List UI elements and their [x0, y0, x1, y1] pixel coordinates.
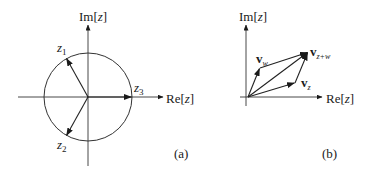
vector-vz — [248, 83, 295, 97]
label-vw: vw — [256, 51, 269, 68]
label-vz: vz — [301, 75, 312, 92]
caption-a: (a) — [174, 146, 188, 161]
complex-plane-figure: Im[z] Re[z] z1 z2 z3 (a) Im[z] Re[z] vw … — [0, 0, 369, 174]
panel-a: Im[z] Re[z] z1 z2 z3 (a) — [18, 9, 194, 166]
label-vz-plus-w: vz+w — [310, 44, 331, 61]
label-z2: z2 — [56, 137, 67, 154]
label-z3: z3 — [133, 80, 144, 97]
vector-z1 — [67, 59, 89, 98]
imag-axis-label-b: Im[z] — [239, 9, 267, 24]
vector-z2 — [67, 97, 89, 136]
imag-axis-label-a: Im[z] — [79, 9, 107, 24]
real-axis-label-b: Re[z] — [326, 91, 354, 106]
caption-b: (b) — [322, 146, 337, 161]
real-axis-label-a: Re[z] — [166, 91, 194, 106]
panel-b: Im[z] Re[z] vw vz vz+w (b) — [239, 9, 354, 161]
label-z1: z1 — [56, 40, 67, 57]
